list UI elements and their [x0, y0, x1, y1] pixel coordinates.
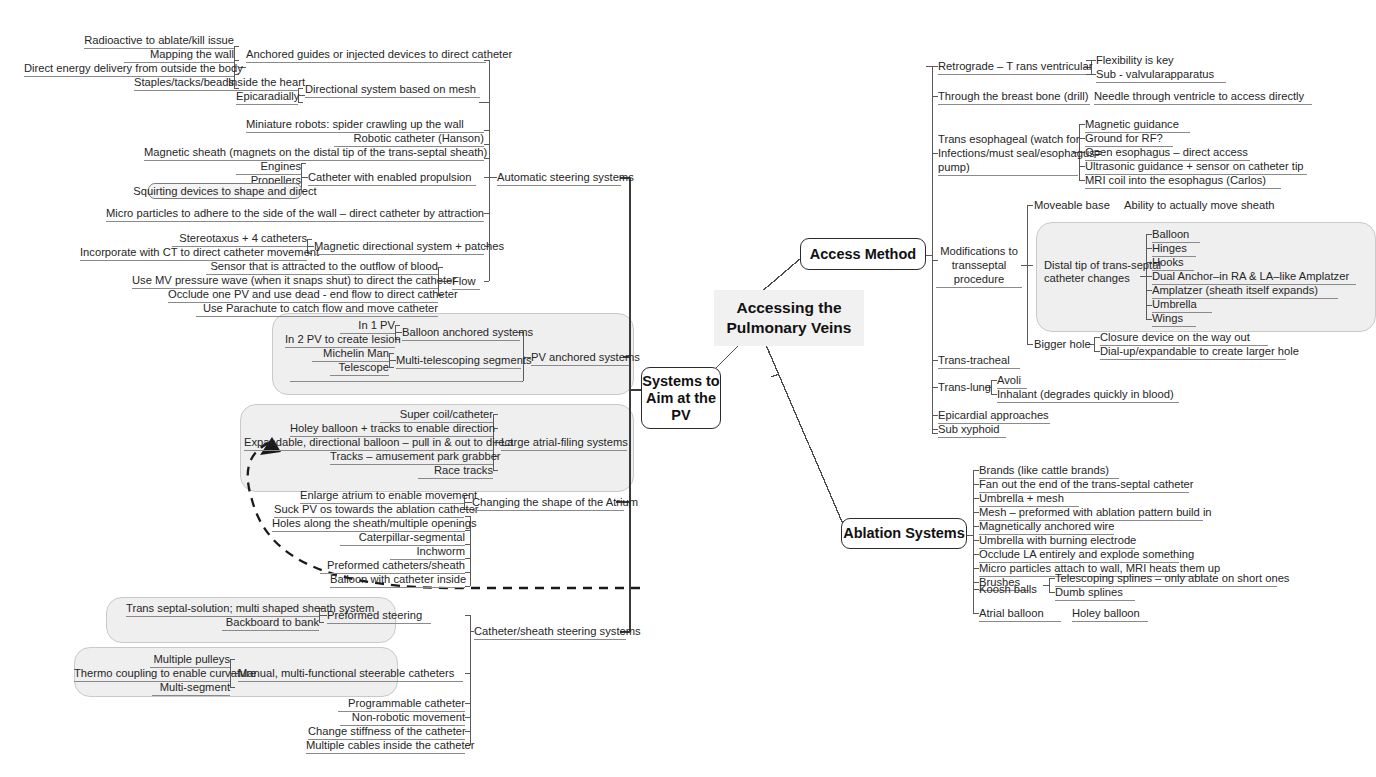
leaf-label[interactable]: Radioactive to ablate/kill issue [84, 34, 234, 49]
leaf-label[interactable]: Super coil/catheter [380, 408, 493, 423]
leaf-label[interactable]: Inhalant (degrades quickly in blood) [997, 388, 1179, 403]
branch-node-ablation-systems[interactable]: Ablation Systems [841, 518, 967, 549]
leaf-label[interactable]: Multiple cables inside the catheter [306, 739, 465, 754]
topic-label-sub-xyphoid[interactable]: Sub xyphoid [938, 423, 1006, 438]
leaf-label[interactable]: Amplatzer (sheath itself expands) [1152, 284, 1338, 299]
topic-label-preformed-steering[interactable]: Preformed steering [327, 609, 431, 624]
topic-label-anchored-guides[interactable]: Anchored guides or injected devices to d… [246, 48, 486, 63]
leaf-label[interactable]: Needle through ventricle to access direc… [1094, 90, 1312, 105]
topic-label-trans-lung[interactable]: Trans-lung [938, 381, 988, 395]
leaf-label[interactable]: Holey balloon + tracks to enable directi… [290, 422, 493, 437]
topic-label-flow[interactable]: Flow [452, 275, 480, 290]
leaf-label[interactable]: Umbrella + mesh [979, 492, 1079, 507]
leaf-label[interactable]: Incorporate with CT to direct catheter m… [80, 246, 307, 261]
topic-label-modifications-line1[interactable]: Modifications to [936, 245, 1022, 259]
leaf-label[interactable]: Stereotaxus + 4 catheters [172, 232, 307, 247]
leaf-label[interactable]: Brands (like cattle brands) [979, 464, 1119, 479]
topic-label-koosh-balls[interactable]: Koosh balls [979, 583, 1041, 597]
leaf-label[interactable] [290, 380, 522, 382]
topic-label-bigger-hole[interactable]: Bigger hole [1034, 338, 1092, 352]
leaf-label[interactable]: Caterpillar-segmental [340, 531, 465, 546]
topic-label-magnetic-sheath[interactable]: Magnetic sheath (magnets on the distal t… [144, 146, 484, 161]
leaf-label[interactable]: Open esophagus – direct access [1085, 146, 1250, 161]
topic-label-retrograde[interactable]: Retrograde – T rans ventricular [938, 60, 1086, 75]
leaf-label[interactable]: Multiple pulleys [150, 653, 230, 668]
leaf-label[interactable]: Holey balloon [1072, 607, 1148, 622]
leaf-label[interactable]: Hinges [1152, 242, 1196, 257]
leaf-label[interactable]: Dial-up/expandable to create larger hole [1100, 345, 1286, 360]
leaf-label[interactable]: Ability to actually move sheath [1124, 199, 1308, 213]
leaf-label[interactable]: Holes along the sheath/multiple openings [272, 517, 465, 532]
leaf-label[interactable]: Engines [236, 160, 301, 175]
leaf-label[interactable]: Umbrella [1152, 298, 1212, 313]
leaf-label[interactable]: Epicaradially [236, 90, 298, 105]
branch-node-access-method[interactable]: Access Method [800, 238, 926, 270]
leaf-label[interactable]: Direct energy delivery from outside the … [24, 62, 234, 77]
topic-label-trans-tracheal[interactable]: Trans-tracheal [938, 354, 1020, 369]
leaf-label[interactable]: Ground for RF? [1085, 132, 1173, 147]
topic-label-magnetic-directional[interactable]: Magnetic directional system + patches [314, 240, 484, 255]
leaf-label[interactable]: Thermo coupling to enable curvature [74, 667, 230, 682]
topic-label-moveable-base[interactable]: Moveable base [1034, 199, 1124, 213]
topic-label-trans-esophageal-line3[interactable]: pump) [938, 161, 1078, 176]
leaf-label[interactable]: Wings [1152, 312, 1196, 327]
leaf-label[interactable]: Umbrella with burning electrode [979, 534, 1135, 549]
leaf-label[interactable]: Use MV pressure wave (when it snaps shut… [132, 274, 438, 289]
topic-label-micro-particles[interactable]: Micro particles to adhere to the side of… [106, 207, 484, 222]
leaf-label[interactable]: Ultrasonic guidance + sensor on catheter… [1085, 160, 1307, 175]
leaf-label[interactable]: Dual Anchor–in RA & LA–like Amplatzer [1152, 270, 1356, 285]
topic-label-epicardial[interactable]: Epicardial approaches [938, 409, 1050, 424]
leaf-label[interactable]: Mesh – preformed with ablation pattern b… [979, 506, 1203, 521]
topic-label-multi-telescoping[interactable]: Multi-telescoping segments [396, 354, 521, 369]
leaf-pill-squirting-devices[interactable]: Squirting devices to shape and direct [148, 183, 302, 199]
leaf-label[interactable]: Sensor that is attracted to the outflow … [206, 260, 438, 275]
leaf-label[interactable]: Use Parachute to catch flow and move cat… [196, 302, 438, 317]
leaf-label[interactable]: Magnetically anchored wire [979, 520, 1114, 535]
leaf-label[interactable]: Occlude LA entirely and explode somethin… [979, 548, 1179, 563]
leaf-label[interactable]: Programmable catheter [338, 697, 465, 712]
leaf-label[interactable]: Magnetic guidance [1085, 118, 1190, 133]
leaf-label[interactable]: In 2 PV to create lesion [285, 333, 395, 348]
leaf-label[interactable]: Telescope [330, 361, 389, 376]
topic-label-miniature-robots[interactable]: Miniature robots: spider crawling up the… [246, 118, 484, 133]
leaf-label[interactable]: Enlarge atrium to enable movement [300, 489, 464, 504]
topic-label-trans-esophageal-line2[interactable]: Infections/must seal/esophagus= [938, 147, 1078, 161]
leaf-label[interactable]: Backboard to bank [222, 616, 319, 631]
leaf-label[interactable]: Dumb splines [1055, 586, 1135, 601]
topic-label-distal-tip-line2[interactable]: catheter changes [1044, 272, 1146, 286]
topic-label-manual-steerable[interactable]: Manual, multi-functional steerable cathe… [238, 667, 463, 682]
topic-label-distal-tip-line1[interactable]: Distal tip of trans-septal [1044, 259, 1146, 273]
leaf-label[interactable]: Sub - valvularapparatus [1096, 68, 1226, 83]
leaf-label[interactable]: Tracks – amusement park grabber [330, 450, 493, 465]
leaf-label[interactable]: Change stiffness of the catheter [308, 725, 465, 740]
leaf-label[interactable]: Telescoping splines – only ablate on sho… [1055, 572, 1277, 587]
leaf-label[interactable]: Staples/tacks/beads [134, 76, 234, 91]
leaf-label[interactable]: Flexibility is key [1096, 54, 1192, 68]
topic-label-balloon-anchored[interactable]: Balloon anchored systems [402, 326, 520, 341]
topic-label-automatic-steering[interactable]: Automatic steering systems [497, 171, 621, 186]
topic-label-breast-bone[interactable]: Through the breast bone (drill) [938, 90, 1090, 105]
topic-label-modifications-line3[interactable]: procedure [936, 273, 1022, 288]
leaf-label[interactable]: Avoli [997, 374, 1027, 389]
branch-node-systems-to-aim[interactable]: Systems toAim at thePV [641, 367, 721, 429]
leaf-label[interactable]: Trans septal-solution; multi shaped shea… [126, 602, 319, 617]
leaf-label[interactable]: Race tracks [418, 464, 493, 479]
leaf-label[interactable]: Suck PV os towards the ablation catheter [274, 503, 464, 518]
topic-label-catheter-sheath-steering[interactable]: Catheter/sheath steering systems [474, 625, 626, 640]
leaf-label[interactable]: Preformed catheters/sheath [320, 559, 465, 574]
leaf-label[interactable]: Balloon [1152, 228, 1200, 243]
leaf-label[interactable]: Multi-segment [152, 681, 230, 696]
topic-label-large-atrial[interactable]: Large atrial-filing systems [501, 436, 627, 451]
topic-label-changing-shape[interactable]: Changing the shape of the Atrium [472, 496, 624, 511]
leaf-label[interactable]: Closure device on the way out [1100, 331, 1268, 346]
root-node[interactable]: Accessing thePulmonary Veins [714, 290, 864, 346]
leaf-label[interactable]: Non-robotic movement [340, 711, 465, 726]
leaf-label[interactable]: Occlude one PV and use dead - end flow t… [168, 288, 438, 303]
leaf-label[interactable]: Inside the heart [228, 76, 298, 91]
leaf-label[interactable]: MRI coil into the esophagus (Carlos) [1085, 174, 1281, 189]
topic-label-modifications-line2[interactable]: transseptal [936, 259, 1022, 273]
leaf-label[interactable]: Michelin Man [312, 347, 389, 362]
topic-label-directional-mesh[interactable]: Directional system based on mesh [305, 83, 480, 98]
leaf-label[interactable]: Hooks [1152, 256, 1194, 271]
topic-label-trans-esophageal-line1[interactable]: Trans esophageal (watch for [938, 133, 1078, 147]
